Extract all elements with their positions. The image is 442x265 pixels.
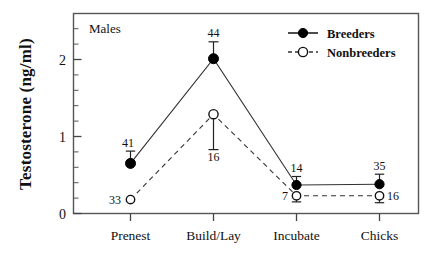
- nonbreeders-point-incubate: [292, 192, 300, 200]
- filled-circle-icon: [298, 28, 307, 37]
- x-axis: Prenest Build/Lay Incubate Chicks: [111, 214, 399, 244]
- nonbreeders-n-build-lay: 16: [208, 150, 220, 164]
- breeders-n-build-lay: 44: [208, 26, 220, 40]
- breeders-point-chicks: [375, 180, 384, 189]
- legend-label-nonbreeders: Nonbreeders: [327, 46, 396, 60]
- nonbreeders-point-prenest: [126, 195, 134, 203]
- x-tick-label-build-lay: Build/Lay: [186, 228, 241, 243]
- plot-frame: [74, 14, 419, 214]
- nonbreeders-point-build-lay: [209, 110, 218, 119]
- nonbreeders-n-chicks: 16: [387, 189, 399, 203]
- breeders-n-incubate: 14: [291, 161, 303, 175]
- breeders-point-build-lay: [209, 54, 219, 64]
- y-tick-label-1: 1: [59, 130, 66, 145]
- panel-annotation-males: Males: [89, 21, 121, 36]
- breeders-n-chicks: 35: [374, 159, 386, 173]
- nonbreeders-n-prenest: 33: [109, 193, 121, 207]
- y-tick-label-2: 2: [59, 53, 66, 68]
- figure-panel: Testosterone (ng/ml) 0 1 2: [0, 0, 442, 265]
- chart-canvas: 0 1 2 Prenest Build/Lay Incubate Chicks …: [0, 0, 442, 265]
- nonbreeders-n-incubate: 7: [282, 189, 288, 203]
- breeders-n-prenest: 41: [122, 136, 134, 150]
- y-tick-label-0: 0: [59, 207, 66, 222]
- x-tick-label-prenest: Prenest: [111, 228, 151, 243]
- nonbreeders-point-chicks: [375, 192, 383, 200]
- breeders-point-prenest: [126, 158, 136, 168]
- x-tick-label-incubate: Incubate: [273, 228, 319, 243]
- legend-label-breeders: Breeders: [327, 27, 375, 41]
- x-tick-label-chicks: Chicks: [361, 228, 399, 243]
- open-circle-icon: [298, 47, 307, 56]
- breeders-point-incubate: [292, 180, 301, 189]
